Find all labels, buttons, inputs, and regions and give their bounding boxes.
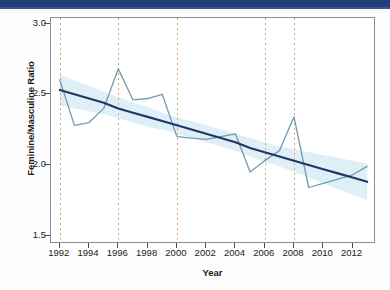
x-axis-title: Year: [50, 267, 375, 278]
x-tick-mark: [147, 243, 148, 248]
screenshot-root: Feminine/Masculine Ratio Year 1.52.02.53…: [0, 0, 390, 290]
y-tick-label: 2.0: [6, 158, 46, 169]
x-tick-mark: [293, 243, 294, 248]
x-tick-mark: [117, 243, 118, 248]
x-tick-mark: [322, 243, 323, 248]
ratio-line: [60, 69, 367, 188]
x-tick-mark: [264, 243, 265, 248]
data-series-lines: [51, 18, 375, 243]
x-tick-mark: [59, 243, 60, 248]
x-tick-mark: [88, 243, 89, 248]
x-tick-mark: [352, 243, 353, 248]
x-tick-label: 2012: [332, 247, 372, 258]
x-tick-mark: [205, 243, 206, 248]
x-tick-mark: [176, 243, 177, 248]
y-tick-label: 3.0: [6, 17, 46, 28]
trend-line: [60, 90, 367, 182]
x-tick-mark: [234, 243, 235, 248]
y-tick-label: 1.5: [6, 229, 46, 240]
y-axis-title: Feminine/Masculine Ratio: [25, 29, 36, 209]
y-tick-label: 2.5: [6, 87, 46, 98]
chart-figure: Feminine/Masculine Ratio Year 1.52.02.53…: [0, 9, 390, 290]
plot-area: [50, 17, 375, 243]
